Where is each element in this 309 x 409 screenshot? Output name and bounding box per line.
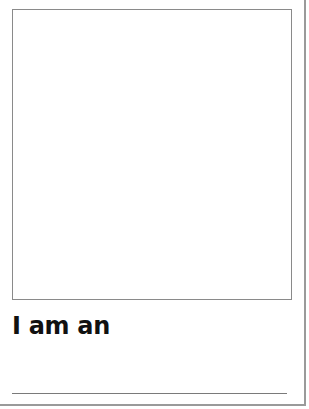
drawing-area[interactable] <box>12 9 292 300</box>
sentence-prompt: I am an <box>12 314 110 338</box>
worksheet-page: I am an <box>0 0 306 406</box>
answer-write-line[interactable] <box>12 393 287 394</box>
